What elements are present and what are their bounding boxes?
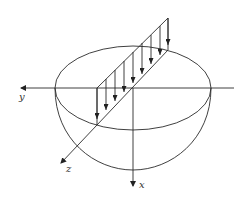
x-axis-label: x: [139, 179, 145, 190]
z-axis: [61, 50, 168, 163]
y-axis-label: y: [18, 91, 25, 102]
z-axis-label: z: [65, 163, 72, 174]
hemisphere-load-diagram: y z x: [0, 0, 248, 199]
distributed-load: [97, 18, 168, 125]
